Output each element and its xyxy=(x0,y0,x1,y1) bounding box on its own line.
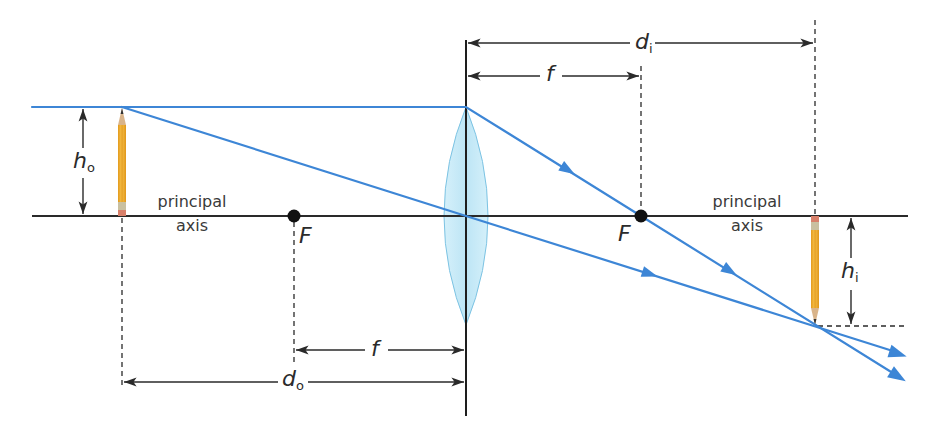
symbol: h xyxy=(73,148,87,173)
label-line: axis xyxy=(707,218,787,234)
focal-length-label-bottom: f xyxy=(371,338,379,360)
focal-length-label-top: f xyxy=(546,63,554,85)
ray-diagram: principal axis principal axis F F ho hi … xyxy=(0,0,931,425)
label-line: axis xyxy=(152,218,232,234)
principal-axis-label-left: principal axis xyxy=(152,194,232,234)
symbol: d xyxy=(282,366,296,391)
subscript: i xyxy=(649,41,653,56)
subscript: o xyxy=(296,378,304,393)
principal-axis-label-right: principal axis xyxy=(707,194,787,234)
object-height-label: ho xyxy=(73,150,95,174)
focal-label-left: F xyxy=(299,225,312,247)
image-height-label: hi xyxy=(841,260,859,284)
object-pencil xyxy=(118,108,126,216)
ray-diagram-canvas xyxy=(0,0,931,425)
focal-point-left xyxy=(288,210,301,223)
subscript: i xyxy=(855,270,859,285)
image-distance-label: di xyxy=(635,31,653,55)
focal-label-right: F xyxy=(618,223,631,245)
subscript: o xyxy=(87,160,95,175)
symbol: d xyxy=(635,29,649,54)
label-line: principal xyxy=(707,194,787,210)
image-pencil xyxy=(811,216,819,325)
symbol: h xyxy=(841,258,855,283)
focal-point-right xyxy=(635,210,648,223)
label-line: principal xyxy=(152,194,232,210)
object-distance-label: do xyxy=(282,368,304,392)
dashed-guides xyxy=(122,20,905,388)
